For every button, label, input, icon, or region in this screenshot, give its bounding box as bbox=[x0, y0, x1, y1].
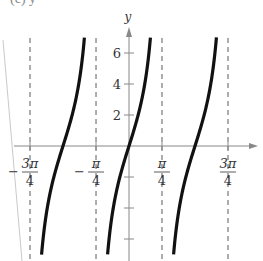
x-tick-numerator: 3π bbox=[22, 156, 39, 171]
x-tick-label: π4− bbox=[74, 156, 104, 188]
y-tick-label: 4 bbox=[113, 77, 121, 92]
tick-labels: y6423π4−π4−π43π4 bbox=[8, 10, 237, 188]
x-tick-numerator: π bbox=[157, 156, 167, 171]
x-tick-sign: − bbox=[8, 164, 19, 179]
y-axis-arrow-icon bbox=[126, 27, 132, 37]
x-tick-numerator: π bbox=[91, 156, 101, 171]
x-tick-label: 3π4 bbox=[220, 156, 237, 188]
x-tick-label: 3π4− bbox=[8, 156, 39, 188]
x-tick-denominator: 4 bbox=[224, 173, 232, 188]
y-axis-label: y bbox=[124, 10, 132, 24]
x-tick-numerator: 3π bbox=[220, 156, 237, 171]
x-tick-label: π4 bbox=[154, 156, 170, 188]
y-tick-label: 6 bbox=[113, 46, 121, 61]
x-tick-sign: − bbox=[74, 164, 85, 179]
x-tick-denominator: 4 bbox=[158, 173, 166, 188]
tangent-graph: y6423π4−π4−π43π4 bbox=[0, 0, 263, 261]
x-tick-denominator: 4 bbox=[26, 173, 34, 188]
page-edge-line bbox=[3, 40, 22, 261]
axes bbox=[14, 27, 258, 261]
x-tick-denominator: 4 bbox=[92, 173, 100, 188]
x-axis-arrow-icon bbox=[249, 143, 258, 149]
y-tick-label: 2 bbox=[113, 108, 121, 123]
